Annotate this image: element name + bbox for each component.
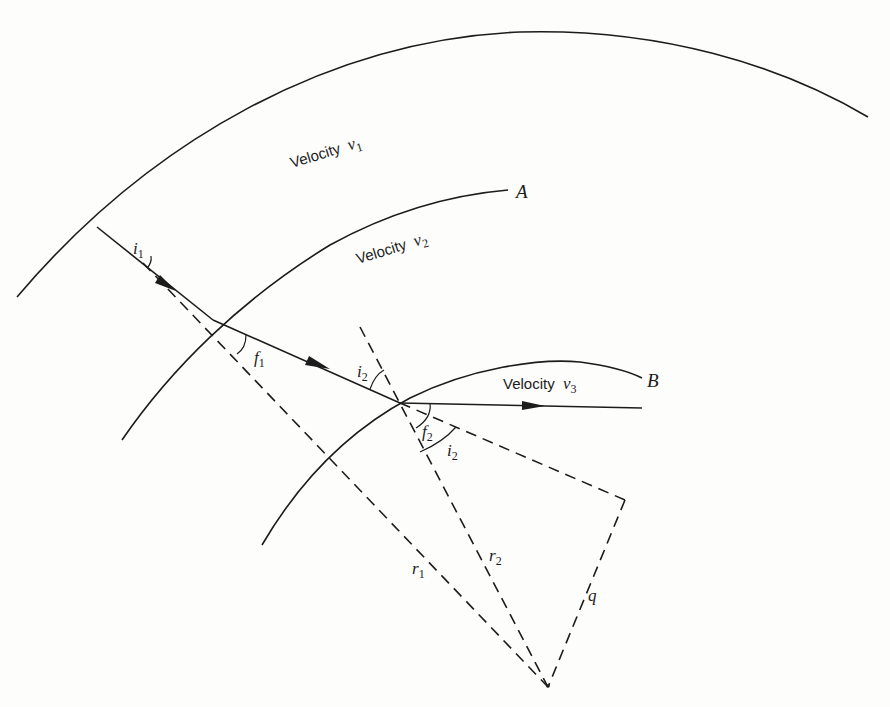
radius-r2-label: r2 bbox=[489, 546, 502, 568]
radius-r1-label: r1 bbox=[412, 559, 425, 581]
angle-i1-arc bbox=[147, 256, 151, 268]
ray-arrow-1-icon bbox=[155, 275, 176, 291]
angle-i1-label: i1 bbox=[133, 239, 144, 261]
centre-point bbox=[546, 684, 550, 688]
layer-v3-label: Velocity v3 bbox=[503, 374, 576, 396]
ray-segment-3 bbox=[400, 403, 642, 408]
radius-r1-line bbox=[143, 263, 548, 687]
layer-v2-label: Velocity v2 bbox=[354, 228, 431, 271]
ray-segment-1 bbox=[97, 227, 213, 320]
perpendicular-q-line bbox=[548, 500, 625, 687]
length-q-label: q bbox=[588, 586, 597, 605]
boundary-a-label: A bbox=[514, 181, 528, 202]
ray-refraction-diagram: Velocity v1 Velocity v2 Velocity v3 A B … bbox=[0, 0, 890, 707]
outer-boundary-arc bbox=[17, 32, 868, 297]
angle-i2-lower-label: i2 bbox=[447, 441, 458, 463]
ray-segment-2 bbox=[213, 320, 400, 403]
angle-i2-arc bbox=[370, 370, 384, 389]
perpendicular-line bbox=[400, 403, 625, 500]
angle-i2-label: i2 bbox=[357, 362, 368, 384]
angle-f1-arc bbox=[237, 335, 246, 354]
boundary-a-arc bbox=[122, 190, 508, 440]
boundary-b-label: B bbox=[647, 370, 659, 391]
angle-f2-label: f2 bbox=[422, 422, 433, 444]
layer-v1-label: Velocity v1 bbox=[288, 132, 365, 175]
angle-f1-label: f1 bbox=[254, 348, 265, 370]
ray-arrow-3-icon bbox=[522, 401, 545, 410]
